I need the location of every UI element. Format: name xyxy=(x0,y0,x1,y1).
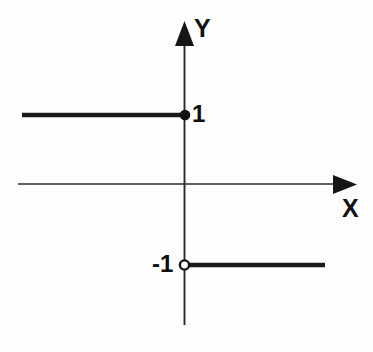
x-axis-arrowhead-icon xyxy=(333,175,357,194)
y-tick-label-negative-one: -1 xyxy=(152,252,173,276)
y-tick-label-positive-one: 1 xyxy=(192,102,205,126)
step-function-figure: Y X 1 -1 xyxy=(0,0,373,352)
closed-endpoint-dot xyxy=(180,110,191,121)
y-axis-arrowhead-icon xyxy=(175,21,194,46)
graph-canvas xyxy=(0,0,373,352)
y-axis-label: Y xyxy=(194,16,211,41)
x-axis-label: X xyxy=(342,196,359,221)
open-endpoint-dot xyxy=(180,260,189,269)
